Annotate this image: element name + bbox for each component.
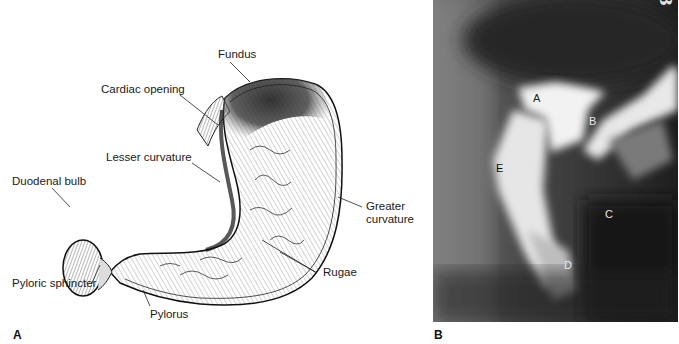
stomach-anatomy-figure: Fundus Cardiac opening Lesser curvature … [0,0,679,344]
xray-shapes [433,0,678,322]
label-greater-curvature-line1: Greater [366,200,405,213]
panel-letter-b: B [434,328,443,342]
film-number: #103 [656,0,676,6]
label-duodenal-bulb: Duodenal bulb [12,175,86,188]
label-pyloric-sphincter: Pyloric sphincter [12,277,96,290]
barium-xray-image: A B C D E #103 [433,0,678,322]
label-pylorus: Pylorus [150,308,188,321]
label-rugae: Rugae [323,266,357,279]
label-greater-curvature-line2: curvature [366,213,414,226]
label-cardiac-opening: Cardiac opening [101,83,185,96]
panel-letter-a: A [13,328,22,342]
label-lesser-curvature: Lesser curvature [106,151,192,164]
xray-label-d: D [564,259,572,271]
xray-label-c: C [605,208,613,220]
label-fundus: Fundus [218,48,256,61]
xray-label-e: E [496,162,503,174]
xray-label-a: A [533,92,540,104]
xray-label-b: B [589,115,596,127]
